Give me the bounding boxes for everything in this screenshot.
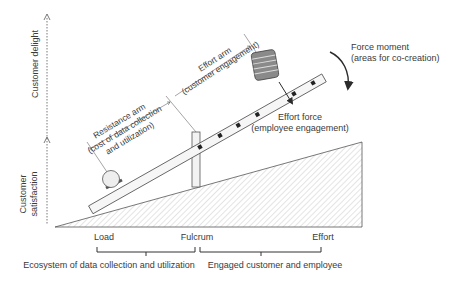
fulcrum-post bbox=[192, 132, 200, 187]
bracket-left bbox=[97, 247, 195, 256]
bracket-right-label: Engaged customer and employee bbox=[208, 260, 343, 270]
effort-force-label: Effort force bbox=[278, 112, 322, 122]
lever-diagram: Customer delight Customer satisfaction bbox=[0, 0, 451, 281]
effort-weight bbox=[251, 49, 279, 81]
force-moment-sublabel: (areas for co-creation) bbox=[351, 53, 440, 63]
axis-label-customer-satisfaction-1: Customer bbox=[18, 174, 28, 213]
fulcrum-label: Fulcrum bbox=[181, 232, 214, 242]
vertical-axis bbox=[44, 14, 50, 224]
effort-arm-sublabel: (customer engagement) bbox=[180, 39, 261, 97]
effort-force-sublabel: (employee engagement) bbox=[251, 123, 349, 133]
load-label: Load bbox=[94, 232, 114, 242]
force-moment-label: Force moment bbox=[351, 42, 410, 52]
effort-label: Effort bbox=[312, 232, 334, 242]
bracket-left-label: Ecosystem of data collection and utiliza… bbox=[23, 260, 195, 270]
force-moment-arrow-icon bbox=[330, 52, 348, 88]
load-ball bbox=[103, 171, 123, 189]
axis-label-customer-delight: Customer delight bbox=[30, 29, 40, 98]
ramp bbox=[55, 142, 362, 227]
bracket-right bbox=[200, 247, 321, 256]
axis-label-customer-satisfaction-2: satisfaction bbox=[29, 171, 39, 216]
